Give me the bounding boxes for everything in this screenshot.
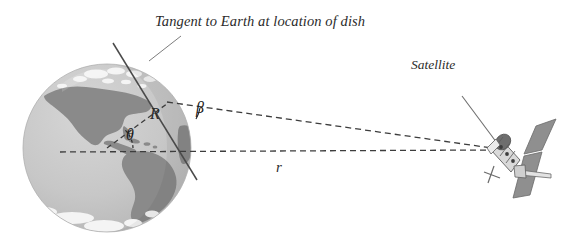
diagram-canvas: Tangent to Earth at location of dish Sat…	[0, 0, 587, 249]
satellite-label: Satellite	[411, 58, 455, 72]
theta-angle-label: θ	[126, 127, 134, 143]
radius-R-label: R	[150, 106, 160, 122]
diagram-svg	[0, 0, 587, 249]
beta-angle-label: β	[196, 100, 204, 116]
satellite-thruster-cross	[484, 166, 500, 183]
earth-globe	[23, 64, 195, 232]
leader-line	[149, 36, 181, 61]
satellite-icon	[462, 96, 556, 198]
satellite-solar-panel-upper	[524, 119, 556, 154]
slant-dashed-line	[167, 102, 492, 148]
satellite-antenna-boom	[462, 96, 497, 143]
distance-r-label: r	[276, 160, 282, 175]
tangent-title-label: Tangent to Earth at location of dish	[155, 14, 365, 29]
